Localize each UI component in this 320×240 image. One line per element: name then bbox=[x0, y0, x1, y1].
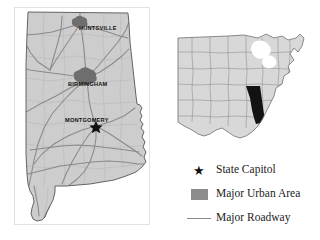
alabama-state-map: HUNTSVILLE BIRMINGHAM MONTGOMERY bbox=[6, 4, 158, 236]
legend-item-state-capitol: ★ State Capitol bbox=[186, 158, 316, 182]
city-label-montgomery: MONTGOMERY bbox=[65, 118, 109, 124]
us-locator-map bbox=[170, 26, 316, 152]
legend-label-major-urban-area: Major Urban Area bbox=[216, 188, 300, 200]
locator-landmass bbox=[170, 26, 316, 152]
legend-label-major-roadway: Major Roadway bbox=[216, 212, 290, 224]
legend-label-state-capitol: State Capitol bbox=[216, 164, 276, 176]
locator-map-graphic bbox=[170, 26, 316, 152]
map-legend: ★ State Capitol Major Urban Area Major R… bbox=[186, 158, 316, 234]
star-icon: ★ bbox=[186, 161, 212, 179]
line-icon bbox=[186, 209, 212, 227]
city-label-birmingham: BIRMINGHAM bbox=[68, 82, 107, 88]
map-figure: HUNTSVILLE BIRMINGHAM MONTGOMERY bbox=[0, 0, 320, 240]
square-icon bbox=[186, 185, 212, 203]
legend-item-major-roadway: Major Roadway bbox=[186, 206, 316, 230]
legend-item-major-urban-area: Major Urban Area bbox=[186, 182, 316, 206]
city-label-huntsville: HUNTSVILLE bbox=[79, 26, 117, 32]
